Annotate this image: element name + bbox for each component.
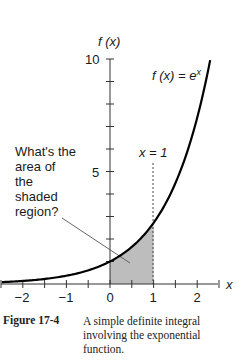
exponential-chart: f (x) 10 5 f (x) = ex x = 1 What's the a… [0, 0, 243, 310]
y-tick-label-5: 5 [92, 165, 99, 180]
callout-line-3: the [15, 174, 33, 189]
callout-line-5: region? [15, 204, 58, 219]
x-tick-label-neg1: −1 [59, 290, 74, 305]
x-equals-1-label: x = 1 [138, 145, 168, 160]
x-tick-label-0: 0 [106, 290, 113, 305]
x-tick-label-1: 1 [149, 290, 156, 305]
callout-line-1: What's the [15, 144, 76, 159]
x-tick-label-2: 2 [193, 290, 200, 305]
figure-caption-text: A simple definite integral involving the… [83, 314, 233, 356]
figure-caption: Figure 17-4 A simple definite integral i… [2, 314, 242, 356]
curve-label: f (x) = ex [152, 67, 201, 83]
x-tick-label-neg2: −2 [15, 290, 30, 305]
callout-line-2: area of [15, 159, 56, 174]
x-axis-label: x [225, 277, 233, 292]
y-axis-label: f (x) [98, 34, 120, 49]
callout-line-4: shaded [15, 189, 58, 204]
figure-number: Figure 17-4 [2, 314, 83, 356]
y-tick-label-10: 10 [85, 52, 99, 67]
